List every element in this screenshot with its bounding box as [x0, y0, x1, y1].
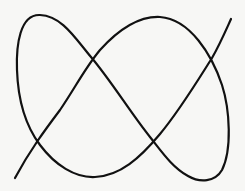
- figure-canvas: [0, 0, 245, 191]
- lissajous-curve: [15, 15, 231, 180]
- curve-drawing: [0, 0, 245, 191]
